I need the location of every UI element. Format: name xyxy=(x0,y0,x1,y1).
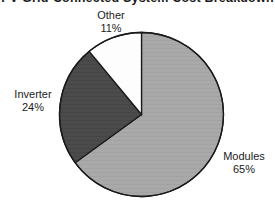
pie-label-inverter: Inverter 24% xyxy=(2,88,64,114)
pie-label-inverter-percent: 24% xyxy=(2,101,64,114)
pie-label-modules-name: Modules xyxy=(223,150,265,162)
pie-chart-figure: PV Grid-Connected System Cost Breakdown … xyxy=(0,0,275,209)
pie-label-modules-percent: 65% xyxy=(214,163,274,176)
pie-label-inverter-name: Inverter xyxy=(14,88,51,100)
pie-label-other: Other 11% xyxy=(82,9,140,35)
pie-label-other-percent: 11% xyxy=(82,22,140,35)
pie-label-other-name: Other xyxy=(97,9,125,21)
pie-label-modules: Modules 65% xyxy=(214,150,274,176)
